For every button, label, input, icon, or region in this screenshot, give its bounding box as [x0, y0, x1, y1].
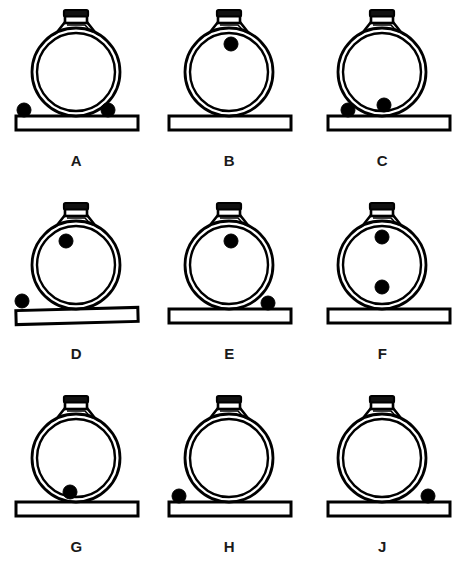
- ball-inside-upper-ball: [375, 230, 389, 244]
- ball-outside-right-ball: [101, 103, 115, 117]
- panel-e-label: E: [153, 345, 306, 363]
- ball-outside-right-ball: [421, 489, 435, 503]
- panel-b-label: B: [153, 152, 306, 170]
- ball-outside-left-ball: [172, 489, 186, 503]
- panel-j-drawing: [306, 386, 459, 546]
- ball-outside-left-ball: [341, 103, 355, 117]
- flask-cap: [217, 10, 241, 17]
- flask-body-fill: [186, 415, 271, 500]
- panel-d-drawing: [0, 193, 153, 353]
- base-plank: [328, 309, 450, 323]
- panel-f-label: F: [306, 345, 459, 363]
- ball-inside-bottom-ball: [63, 485, 77, 499]
- panel-a-label: A: [0, 152, 153, 170]
- support-base: [169, 116, 291, 130]
- ball-inside-upper-ball: [59, 234, 73, 248]
- flask-cap: [64, 10, 88, 17]
- flask-cap: [64, 203, 88, 210]
- panel-f: F: [306, 193, 459, 386]
- base-plank: [328, 502, 450, 516]
- panel-j: J: [306, 386, 459, 578]
- panel-h-label: H: [153, 538, 306, 556]
- panel-d: D: [0, 193, 153, 386]
- base-plank: [328, 116, 450, 130]
- panel-e: E: [153, 193, 306, 386]
- panel-g-label: G: [0, 538, 153, 556]
- panel-a: A: [0, 0, 153, 193]
- panel-j-label: J: [306, 538, 459, 556]
- support-base: [328, 116, 450, 130]
- base-plank: [169, 309, 291, 323]
- flask: [185, 10, 273, 116]
- ball-outside-left-ball: [17, 103, 31, 117]
- base-plank: [169, 502, 291, 516]
- ball-inside-lower-ball: [375, 280, 389, 294]
- flask: [32, 396, 120, 502]
- panel-a-drawing: [0, 0, 153, 160]
- base-plank: [169, 116, 291, 130]
- flask-cap: [370, 396, 394, 403]
- flask-body-fill: [339, 415, 424, 500]
- panel-c-drawing: [306, 0, 459, 160]
- flask: [185, 396, 273, 502]
- support-base: [169, 502, 291, 516]
- panel-e-drawing: [153, 193, 306, 353]
- ball-inside-bottom-right-ball: [377, 98, 391, 112]
- support-base: [328, 502, 450, 516]
- panel-d-label: D: [0, 345, 153, 363]
- flask-cap: [370, 203, 394, 210]
- flask: [338, 396, 426, 502]
- flask-diagram-figure: ABCDEFGHJ: [0, 0, 460, 578]
- ball-outside-right-ball: [261, 296, 275, 310]
- support-base: [328, 309, 450, 323]
- base-plank: [16, 116, 138, 130]
- panel-c: C: [306, 0, 459, 193]
- panel-b-drawing: [153, 0, 306, 160]
- flask-cap: [370, 10, 394, 17]
- support-base: [16, 116, 138, 130]
- flask: [32, 203, 120, 309]
- ball-inside-upper-ball: [224, 234, 238, 248]
- panel-g: G: [0, 386, 153, 578]
- ball-outside-left-ball: [15, 294, 29, 308]
- panel-h: H: [153, 386, 306, 578]
- flask-cap: [64, 396, 88, 403]
- flask-cap: [217, 396, 241, 403]
- flask-body-fill: [33, 29, 118, 114]
- flask: [32, 10, 120, 116]
- flask-body-fill: [33, 222, 118, 307]
- flask: [185, 203, 273, 309]
- ball-inside-upper-ball: [224, 37, 238, 51]
- support-base: [16, 502, 138, 516]
- support-base: [169, 309, 291, 323]
- base-plank: [16, 502, 138, 516]
- panel-g-drawing: [0, 386, 153, 546]
- flask-cap: [217, 203, 241, 210]
- panel-h-drawing: [153, 386, 306, 546]
- panel-f-drawing: [306, 193, 459, 353]
- panel-b: B: [153, 0, 306, 193]
- panel-c-label: C: [306, 152, 459, 170]
